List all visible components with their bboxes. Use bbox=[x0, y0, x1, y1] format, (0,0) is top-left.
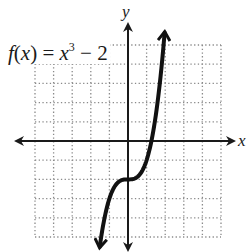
formula-x: x bbox=[21, 41, 30, 65]
x-axis-label: x bbox=[238, 131, 246, 151]
formula-tail: − 2 bbox=[75, 41, 108, 65]
plot-area bbox=[0, 0, 252, 252]
y-axis-label: y bbox=[122, 2, 130, 22]
function-label: f(x) = x3 − 2 bbox=[8, 42, 110, 64]
graph-figure: f(x) = x3 − 2 y x bbox=[0, 0, 252, 252]
formula-open: ( bbox=[14, 41, 21, 65]
formula-base: x bbox=[60, 41, 69, 65]
formula-close: ) = bbox=[30, 41, 59, 65]
